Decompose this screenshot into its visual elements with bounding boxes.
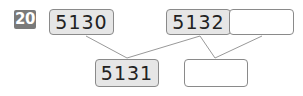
number-box-top-2: 5132 <box>166 9 231 35</box>
answer-box-top-3[interactable] <box>229 9 294 35</box>
problem-number-badge: 20 <box>14 10 36 29</box>
number-box-top-1: 5130 <box>49 9 114 35</box>
number-box-bottom-1: 5131 <box>95 59 159 87</box>
answer-box-bottom-2[interactable] <box>184 59 248 87</box>
